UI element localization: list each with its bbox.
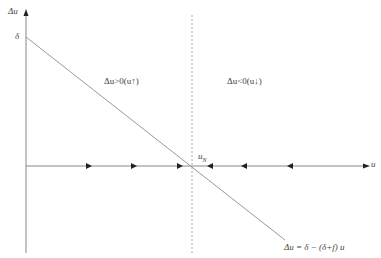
left-arrow-icon (241, 163, 247, 169)
left-arrow-icon (207, 163, 213, 169)
right-arrow-icon (177, 163, 183, 169)
line-equation-label: Δu = δ − (δ+f) u (284, 242, 345, 252)
equilibrium-label-sub: N (203, 157, 207, 163)
region-left-label: Δu>0(u↑) (104, 76, 139, 86)
phase-diagram (0, 0, 381, 258)
right-arrow-icon (86, 163, 92, 169)
x-axis-arrowhead-icon (363, 164, 370, 169)
region-right-label: Δu<0(u↓) (227, 76, 262, 86)
x-axis-label: u (371, 159, 376, 169)
delta-u-line (26, 37, 285, 240)
right-arrow-icon (131, 163, 137, 169)
intercept-label: δ (15, 31, 19, 41)
left-arrow-icon (287, 163, 293, 169)
y-axis-arrowhead-icon (24, 9, 29, 16)
equilibrium-label: uN (198, 151, 207, 163)
y-axis-label: Δu (8, 6, 18, 16)
